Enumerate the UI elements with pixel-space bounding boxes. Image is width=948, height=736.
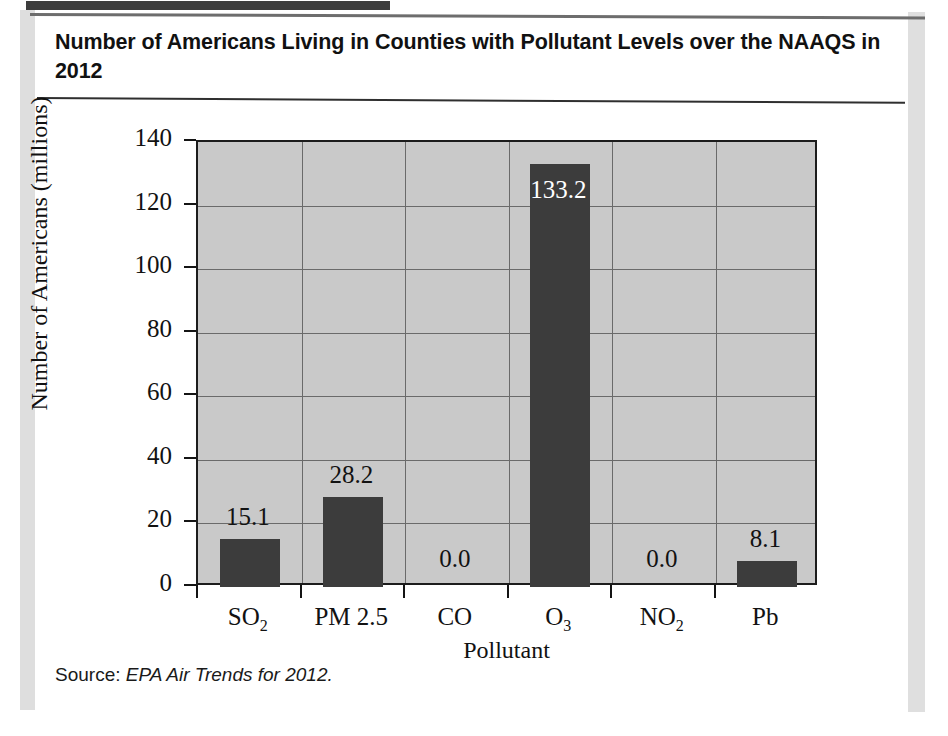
x-axis-category-label: O3 (507, 603, 611, 635)
bar (323, 497, 383, 587)
x-axis-tick (507, 585, 509, 598)
page-title: Number of Americans Living in Counties w… (55, 28, 885, 86)
x-axis-tick (714, 585, 716, 598)
y-axis-tick (184, 266, 196, 268)
gridline-horizontal (198, 333, 815, 334)
bar-value-label: 133.2 (507, 176, 611, 204)
bar-value-label: 15.1 (196, 503, 300, 531)
gridline-horizontal (198, 269, 815, 270)
y-axis-tick-label: 0 (102, 569, 172, 597)
gridline-vertical (302, 142, 303, 583)
x-axis-title: Pollutant (196, 637, 817, 664)
y-axis-tick-label: 140 (102, 124, 172, 152)
y-axis-tick (184, 139, 196, 141)
y-axis-tick-label: 120 (102, 188, 172, 216)
source-citation: EPA Air Trends for 2012. (126, 664, 333, 685)
y-axis-tick-label: 60 (102, 378, 172, 406)
source-label: Source: (55, 664, 120, 685)
x-axis-category-label: SO2 (196, 603, 300, 635)
gridline-vertical (509, 142, 510, 583)
bar-value-label: 28.2 (300, 461, 404, 489)
y-axis-tick (184, 393, 196, 395)
x-axis-category-label: CO (403, 603, 507, 631)
source-note: Source: EPA Air Trends for 2012. (55, 664, 333, 686)
top-border-rule (30, 13, 925, 19)
gridline-horizontal (198, 206, 815, 207)
y-axis-tick (184, 584, 196, 586)
bar-value-label: 0.0 (610, 545, 714, 573)
y-axis-tick (184, 520, 196, 522)
x-axis-tick (610, 585, 612, 598)
gridline-vertical (405, 142, 406, 583)
x-axis-category-label: Pb (714, 603, 818, 631)
top-dark-tab (26, 1, 390, 10)
page-edge-shadow-right (908, 12, 925, 712)
y-axis-tick (184, 457, 196, 459)
x-axis-tick (196, 585, 198, 598)
bar-value-label: 8.1 (714, 525, 818, 553)
figure-page: Number of Americans Living in Counties w… (0, 0, 948, 736)
bar-value-label: 0.0 (403, 545, 507, 573)
y-axis-tick (184, 203, 196, 205)
gridline-vertical (612, 142, 613, 583)
bar (530, 164, 590, 587)
x-axis-tick (300, 585, 302, 598)
gridline-horizontal (198, 396, 815, 397)
bar (737, 561, 797, 587)
y-axis-tick-label: 20 (102, 505, 172, 533)
y-axis-tick (184, 330, 196, 332)
title-divider (37, 97, 905, 104)
y-axis-title: Number of Americans (millions) (26, 19, 53, 489)
x-axis-category-label: NO2 (610, 603, 714, 635)
bar (220, 539, 280, 587)
y-axis-tick-label: 80 (102, 315, 172, 343)
y-axis-tick-label: 100 (102, 251, 172, 279)
gridline-vertical (716, 142, 717, 583)
gridline-horizontal (198, 460, 815, 461)
x-axis-tick (403, 585, 405, 598)
y-axis-tick-label: 40 (102, 442, 172, 470)
x-axis-category-label: PM 2.5 (300, 603, 404, 631)
